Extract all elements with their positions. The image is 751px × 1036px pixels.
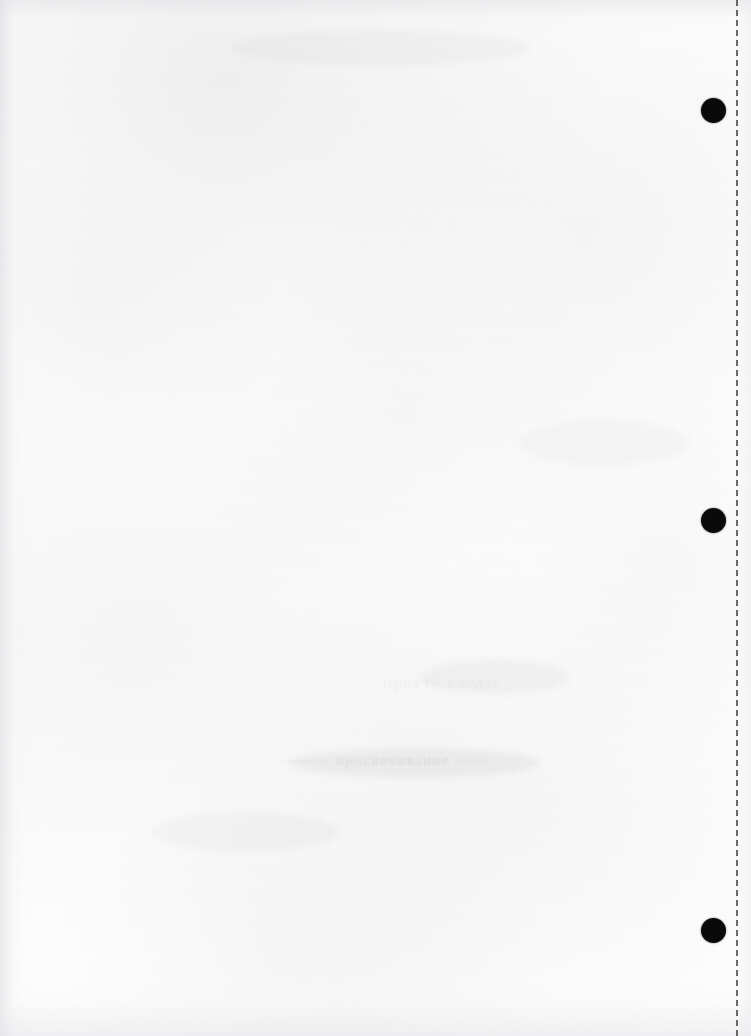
scanned-page: просто следы——— просвечивание ——· · · · … xyxy=(0,0,751,1036)
paper-sheet xyxy=(0,0,751,1036)
punch-hole-middle xyxy=(701,508,726,533)
dashed-guide-line xyxy=(736,0,738,1036)
punch-hole-top xyxy=(701,98,726,123)
punch-hole-bottom xyxy=(701,918,726,943)
